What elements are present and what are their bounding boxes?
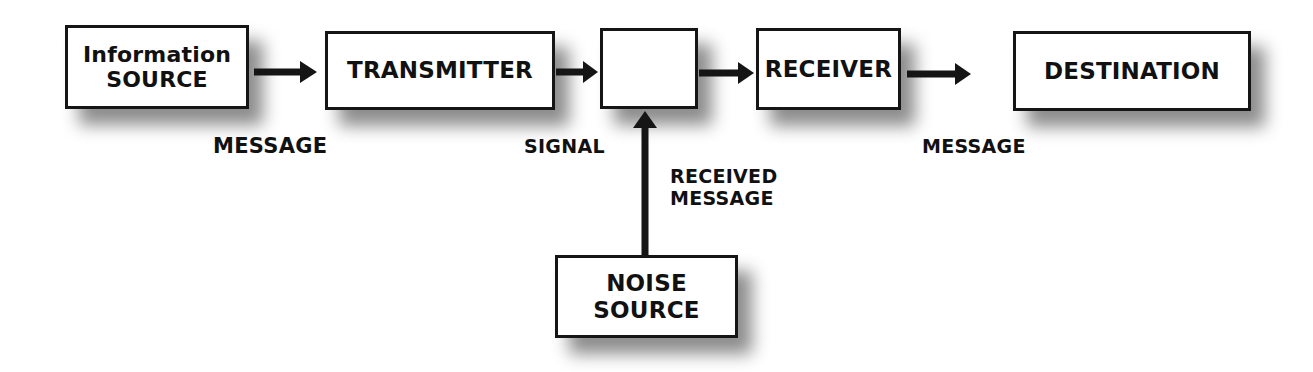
arrow-transmitter-to-channel-icon — [556, 61, 598, 83]
received-message-line2: MESSAGE — [670, 188, 777, 210]
connector-arrows — [0, 0, 1313, 372]
arrow-noise-to-channel-icon — [633, 111, 657, 255]
signal-label: SIGNAL — [524, 136, 605, 158]
received-message-label: RECEIVED MESSAGE — [670, 166, 777, 210]
arrow-channel-to-receiver-icon — [699, 62, 754, 84]
message-label-right: MESSAGE — [922, 136, 1026, 158]
message-label-left: MESSAGE — [213, 134, 327, 158]
arrow-source-to-transmitter-icon — [254, 61, 317, 83]
arrow-receiver-to-destination-icon — [907, 63, 971, 85]
received-message-line1: RECEIVED — [670, 166, 777, 188]
